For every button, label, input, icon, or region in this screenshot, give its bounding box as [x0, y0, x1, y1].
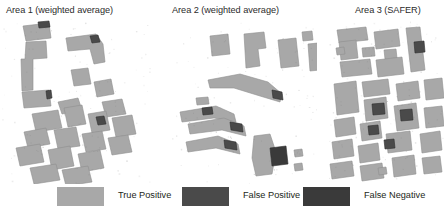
footprint-texture: [403, 169, 404, 170]
footprint-texture: [397, 96, 398, 97]
footprint-false-positive: [400, 109, 413, 121]
footprint-false-positive: [46, 90, 52, 99]
footprint-texture: [337, 97, 338, 98]
footprint-texture: [189, 122, 190, 123]
footprint-texture: [97, 151, 98, 152]
footprint-texture: [100, 168, 101, 169]
footprint-texture: [216, 132, 217, 133]
legend-entry-false-negative: False Negative: [303, 185, 425, 207]
footprint-texture: [25, 54, 26, 55]
legend-entry-true-positive: True Positive: [57, 185, 171, 207]
footprint-texture: [77, 168, 78, 169]
footprint-texture: [24, 148, 25, 149]
footprint-true-positive: [210, 34, 230, 56]
footprint-texture: [365, 39, 366, 40]
footprint-true-positive: [32, 110, 62, 132]
footprint-false-negative: [270, 146, 288, 166]
footprint-true-positive: [302, 31, 313, 41]
legend: True Positive False Positive False Negat…: [0, 185, 444, 211]
footprint-texture: [270, 161, 271, 162]
footprint-texture: [339, 156, 340, 157]
footprint-texture: [351, 146, 352, 147]
footprint-true-positive: [334, 81, 359, 115]
footprint-texture: [86, 147, 87, 148]
footprint-texture: [346, 29, 347, 30]
footprint-true-positive: [108, 135, 132, 155]
footprint-texture: [227, 35, 228, 36]
footprint-texture: [344, 170, 345, 171]
footprint-texture: [254, 174, 255, 175]
footprint-texture: [82, 145, 83, 146]
footprint-texture: [344, 72, 345, 73]
footprint-true-positive: [208, 74, 282, 102]
footprint-texture: [300, 150, 301, 151]
footprint-texture: [254, 139, 255, 140]
footprint-false-positive: [368, 125, 379, 135]
footprint-texture: [224, 41, 225, 42]
footprint-texture: [107, 81, 108, 82]
footprint-texture: [225, 40, 226, 41]
footprint-false-positive: [384, 139, 395, 149]
footprint-texture: [367, 61, 368, 62]
footprint-texture: [441, 113, 442, 114]
footprint-texture: [407, 157, 408, 158]
footprint-texture: [115, 111, 116, 112]
legend-swatch-true-positive: [57, 187, 104, 206]
footprint-texture: [29, 49, 30, 50]
footprint-texture: [26, 72, 27, 73]
footprint-texture: [387, 101, 388, 102]
footprint-texture: [372, 48, 373, 49]
footprint-true-positive: [376, 57, 404, 77]
footprint-texture: [31, 31, 32, 32]
footprint-texture: [43, 144, 44, 145]
footprint-texture: [408, 104, 409, 105]
footprint-texture: [426, 107, 427, 108]
footprint-texture: [294, 154, 295, 155]
footprint-texture: [41, 154, 42, 155]
footprint-texture: [402, 105, 403, 106]
footprint-texture: [115, 106, 116, 107]
footprint-texture: [115, 102, 116, 103]
footprint-texture: [366, 39, 367, 40]
footprint-texture: [75, 168, 76, 169]
footprint-false-positive: [202, 107, 213, 115]
footprint-texture: [341, 101, 342, 102]
footprint-true-positive: [424, 106, 444, 128]
footprint-true-positive: [278, 38, 299, 68]
footprint-true-positive: [422, 156, 442, 174]
footprint-texture: [91, 181, 92, 182]
footprint-false-positive: [96, 116, 106, 125]
footprint-texture: [371, 55, 372, 56]
footprint-texture: [98, 137, 99, 138]
footprint-true-positive: [112, 115, 136, 137]
footprint-true-positive: [420, 131, 442, 153]
footprint-texture: [36, 32, 37, 33]
footprint-true-positive: [54, 127, 80, 149]
footprint-texture: [71, 126, 72, 127]
footprint-true-positive: [332, 139, 354, 159]
footprint-texture: [341, 145, 342, 146]
footprint-true-positive: [334, 117, 356, 137]
footprint-texture: [397, 34, 398, 35]
footprint-false-positive: [90, 35, 100, 43]
footprint-texture: [383, 97, 384, 98]
footprint-texture: [311, 48, 312, 49]
footprint-texture: [110, 81, 111, 82]
footprint-texture: [197, 117, 198, 118]
footprint-true-positive: [358, 143, 380, 163]
footprint-texture: [37, 38, 38, 39]
footprint-texture: [80, 123, 81, 124]
footprint-texture: [213, 41, 214, 42]
footprint-texture: [45, 28, 46, 29]
footprint-true-positive: [378, 167, 387, 175]
footprint-texture: [437, 119, 438, 120]
footprint-texture: [283, 38, 284, 39]
footprint-texture: [388, 137, 389, 138]
map-panel-area-3: [326, 18, 444, 184]
map-svg-area-1: [2, 18, 152, 184]
footprint-texture: [342, 65, 343, 66]
footprint-texture: [341, 105, 342, 106]
footprint-texture: [38, 151, 39, 152]
footprint-texture: [233, 151, 234, 152]
footprint-texture: [99, 82, 100, 83]
